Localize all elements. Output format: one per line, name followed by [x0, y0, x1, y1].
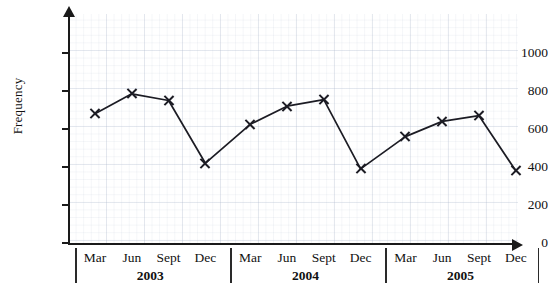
y-axis-tick-label: 800: [494, 84, 548, 98]
group-separator: [538, 248, 540, 283]
plot-area: [68, 14, 518, 243]
y-axis-tick: [62, 90, 69, 92]
y-axis-tick: [62, 166, 69, 168]
x-axis-line: [68, 243, 516, 245]
y-axis-tick-label: 600: [494, 122, 548, 136]
line-chart: 02004006008001000 Frequency MarJunSeptDe…: [0, 0, 548, 293]
y-axis-tick-label: 1000: [494, 46, 548, 60]
y-axis-tick: [62, 242, 69, 244]
group-separator: [385, 248, 387, 283]
x-axis-group-label: 2003: [105, 269, 195, 283]
y-axis-title: Frequency: [10, 78, 26, 135]
x-axis-tick-label: Dec: [490, 251, 542, 265]
y-axis-arrow-icon: [63, 6, 75, 17]
y-axis-tick: [62, 204, 69, 206]
y-axis-title-wrap: Frequency: [0, 96, 88, 114]
y-axis-tick-label: 0: [494, 236, 548, 250]
group-separator: [230, 248, 232, 283]
y-axis-tick-label: 200: [494, 198, 548, 212]
x-axis-group-label: 2005: [416, 269, 506, 283]
y-axis-tick-label: 400: [494, 160, 548, 174]
y-axis-tick: [62, 128, 69, 130]
group-separator: [75, 248, 77, 283]
y-axis-tick: [62, 52, 69, 54]
x-axis-group-label: 2004: [260, 269, 350, 283]
